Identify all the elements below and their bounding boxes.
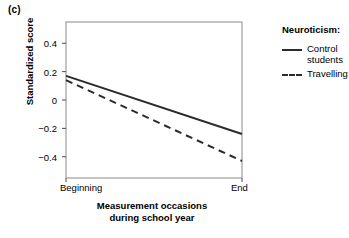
- x-axis-tick-label: Beginning: [60, 182, 102, 193]
- legend-entry-label: Travelling: [307, 69, 348, 80]
- x-axis-title-line: during school year: [62, 212, 242, 224]
- legend-swatch-dashed: [282, 70, 302, 80]
- legend-entry: Travelling: [282, 69, 349, 80]
- series-line: [66, 80, 242, 161]
- series-line: [66, 76, 242, 134]
- legend-title: Neurotic​ism:: [282, 24, 349, 35]
- x-axis-tick-label: End: [231, 182, 248, 193]
- legend-entries: ControlstudentsTravelling: [282, 44, 349, 80]
- x-axis-title-line: Measurement occasions: [62, 200, 242, 212]
- legend-swatch-solid: [282, 45, 302, 55]
- chart-legend: Neurotic​ism: ControlstudentsTravelling: [282, 24, 349, 84]
- plot-panel-border: [66, 22, 242, 178]
- y-axis-ticks: [62, 43, 66, 156]
- data-series-group: [66, 76, 242, 161]
- legend-entry-label: Controlstudents: [307, 44, 343, 65]
- legend-entry: Controlstudents: [282, 44, 349, 65]
- chart-figure: Standardized score 0.40.20−0.2−0.4 Begin…: [0, 0, 349, 238]
- x-axis-title: Measurement occasionsduring school year: [62, 200, 242, 224]
